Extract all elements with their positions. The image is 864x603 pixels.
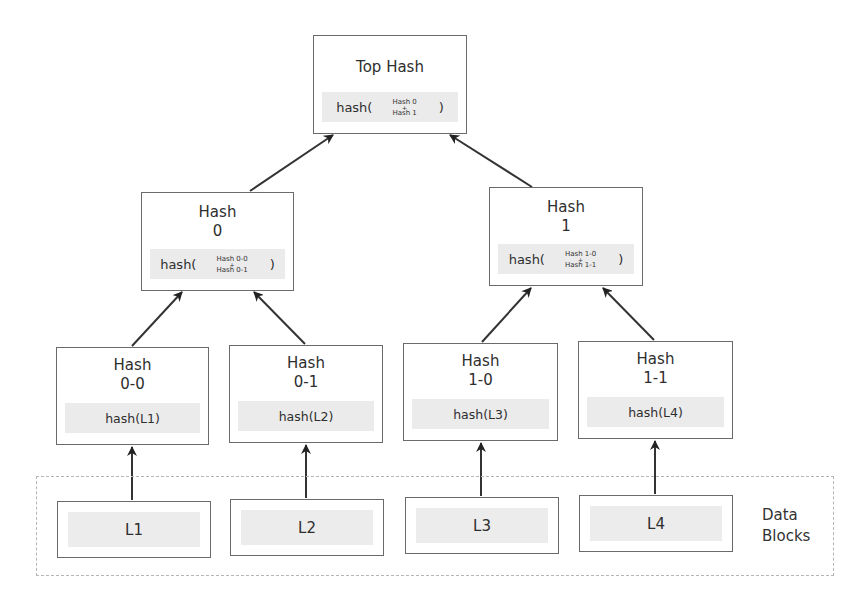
node-title: Top Hash: [314, 58, 466, 77]
data-blocks-label-line1: Data: [762, 505, 810, 526]
node-title-line2: 1-1: [579, 369, 732, 388]
edge-hash0-to-top: [250, 135, 333, 191]
data-block-label: L3: [416, 508, 548, 543]
node-title: Hash 1: [490, 198, 642, 236]
data-block-l3: L3: [405, 497, 559, 554]
node-hash-0-1: Hash 0-1 hash(L2): [229, 345, 383, 443]
data-block-l2: L2: [230, 499, 384, 556]
data-block-l4: L4: [579, 495, 733, 552]
hash-formula: hash( Hash 0 + Hash 1 ): [322, 92, 458, 122]
data-block-label: L2: [241, 510, 373, 545]
node-title: Hash 0-1: [230, 354, 382, 392]
hash-args: Hash 0 + Hash 1: [392, 98, 416, 117]
node-title-line1: Hash: [57, 356, 208, 375]
node-title: Hash 0: [142, 203, 293, 241]
node-title-line2: 1-0: [404, 371, 557, 390]
node-hash-0-0: Hash 0-0 hash(L1): [56, 347, 209, 445]
hash-arg: Hash 1: [392, 109, 416, 117]
node-title-line1: Hash: [230, 354, 382, 373]
data-block-label: L4: [590, 506, 722, 541]
hash-arg: Hash 1-1: [565, 261, 596, 269]
edge-hash11-to-hash1: [603, 288, 654, 340]
hash-close: ): [439, 100, 444, 115]
edge-hash1-to-top: [450, 135, 532, 187]
node-title: Hash 0-0: [57, 356, 208, 394]
hash-args: Hash 1-0 + Hash 1-1: [565, 250, 596, 269]
edge-hash10-to-hash1: [482, 288, 531, 342]
node-title-line2: 0-0: [57, 375, 208, 394]
data-blocks-label-line2: Blocks: [762, 526, 810, 547]
hash-fn: hash(: [336, 100, 372, 115]
hash-fn: hash(: [160, 257, 196, 272]
hash-args: Hash 0-0 + Hash 0-1: [216, 255, 247, 274]
hash-formula: hash(L4): [587, 397, 724, 427]
node-title-line1: Hash: [142, 203, 293, 222]
data-block-l1: L1: [57, 501, 211, 558]
hash-formula: hash(L3): [412, 399, 549, 429]
hash-formula: hash(L2): [238, 401, 374, 431]
node-hash-1-0: Hash 1-0 hash(L3): [403, 343, 558, 441]
hash-fn: hash(: [509, 252, 545, 267]
edge-hash00-to-hash0: [132, 292, 182, 346]
hash-close: ): [618, 252, 623, 267]
hash-formula: hash(L1): [65, 403, 200, 433]
node-title-line1: Hash: [404, 352, 557, 371]
data-blocks-label: Data Blocks: [762, 505, 810, 547]
edge-hash01-to-hash0: [254, 292, 305, 344]
node-title-line2: 0: [142, 222, 293, 241]
node-hash-0: Hash 0 hash( Hash 0-0 + Hash 0-1 ): [141, 192, 294, 291]
node-top-hash: Top Hash hash( Hash 0 + Hash 1 ): [313, 35, 467, 134]
hash-close: ): [270, 257, 275, 272]
node-title: Hash 1-1: [579, 350, 732, 388]
hash-formula: hash( Hash 0-0 + Hash 0-1 ): [150, 249, 285, 279]
merkle-tree-diagram: Top Hash hash( Hash 0 + Hash 1 ) Hash 0 …: [0, 0, 864, 603]
node-title-line1: Hash: [579, 350, 732, 369]
hash-arg: Hash 0-1: [216, 266, 247, 274]
node-title-line2: 1: [490, 217, 642, 236]
hash-formula: hash( Hash 1-0 + Hash 1-1 ): [498, 244, 634, 274]
node-title-line1: Hash: [490, 198, 642, 217]
node-hash-1-1: Hash 1-1 hash(L4): [578, 341, 733, 439]
data-block-label: L1: [68, 512, 200, 547]
node-title: Hash 1-0: [404, 352, 557, 390]
node-title-line2: 0-1: [230, 373, 382, 392]
node-hash-1: Hash 1 hash( Hash 1-0 + Hash 1-1 ): [489, 187, 643, 286]
